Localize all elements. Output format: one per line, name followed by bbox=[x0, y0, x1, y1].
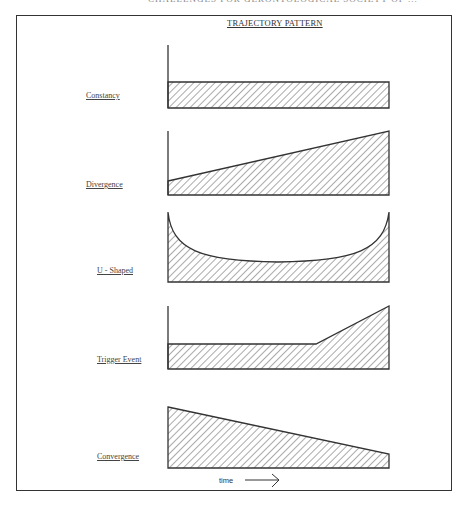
constancy-chart bbox=[168, 45, 389, 108]
trajectory-diagrams bbox=[0, 0, 469, 506]
convergence-chart bbox=[168, 407, 389, 468]
right-arrow-icon bbox=[245, 474, 279, 487]
divergence-chart bbox=[168, 131, 389, 195]
u-shaped-chart bbox=[168, 212, 389, 282]
trigger-event-chart bbox=[168, 306, 389, 369]
x-axis-label: time bbox=[219, 476, 233, 485]
